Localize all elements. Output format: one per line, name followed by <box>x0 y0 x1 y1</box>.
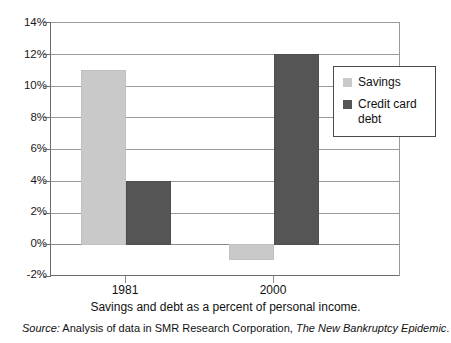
bar-credit-card-debt-1981 <box>126 181 171 245</box>
bar-savings-2000 <box>229 244 274 260</box>
y-axis-label-8: 8% <box>1 112 47 123</box>
source-note: Source: Analysis of data in SMR Research… <box>22 322 442 335</box>
savings-swatch-icon <box>343 78 352 87</box>
y-axis-label-4: 4% <box>1 175 47 186</box>
legend-label-credit-card-debt: Credit card debt <box>358 97 428 127</box>
x-axis-label-1981: 1981 <box>100 283 150 297</box>
x-axis-tick-2 <box>273 276 274 283</box>
legend-label-savings: Savings <box>358 75 401 90</box>
credit-card-debt-swatch-icon <box>343 100 352 109</box>
y-axis-label-0: 0% <box>1 238 47 249</box>
legend-item-credit-card-debt: Credit card debt <box>343 97 428 127</box>
gridline-14 <box>51 22 399 23</box>
plot-area <box>50 22 400 276</box>
y-axis-label-10: 10% <box>1 80 47 91</box>
gridline-neg2 <box>51 275 399 276</box>
source-label: Source: <box>22 322 60 334</box>
bar-savings-1981 <box>81 70 126 245</box>
source-publication-title: The New Bankruptcy Epidemic <box>296 322 446 334</box>
x-axis-label-2000: 2000 <box>248 283 298 297</box>
x-axis-tick-1 <box>125 276 126 283</box>
bar-credit-card-debt-2000 <box>274 54 319 245</box>
y-axis-tick-neg2 <box>44 276 51 277</box>
gridline-12 <box>51 54 399 55</box>
source-body: Analysis of data in SMR Research Corpora… <box>60 322 296 334</box>
y-axis-label-2: 2% <box>1 206 47 217</box>
y-axis-label-14: 14% <box>1 17 47 28</box>
y-axis-label-12: 12% <box>1 49 47 60</box>
y-axis-label-6: 6% <box>1 143 47 154</box>
y-axis-label-neg2: -2% <box>1 269 47 280</box>
legend: Savings Credit card debt <box>333 66 436 137</box>
chart-caption: Savings and debt as a percent of persona… <box>0 300 451 314</box>
source-period: . <box>446 322 449 334</box>
legend-item-savings: Savings <box>343 75 428 90</box>
bar-chart-figure: 14% 12% 10% 8% 6% 4% 2% 0% -2% 1981 2000 <box>0 0 451 343</box>
